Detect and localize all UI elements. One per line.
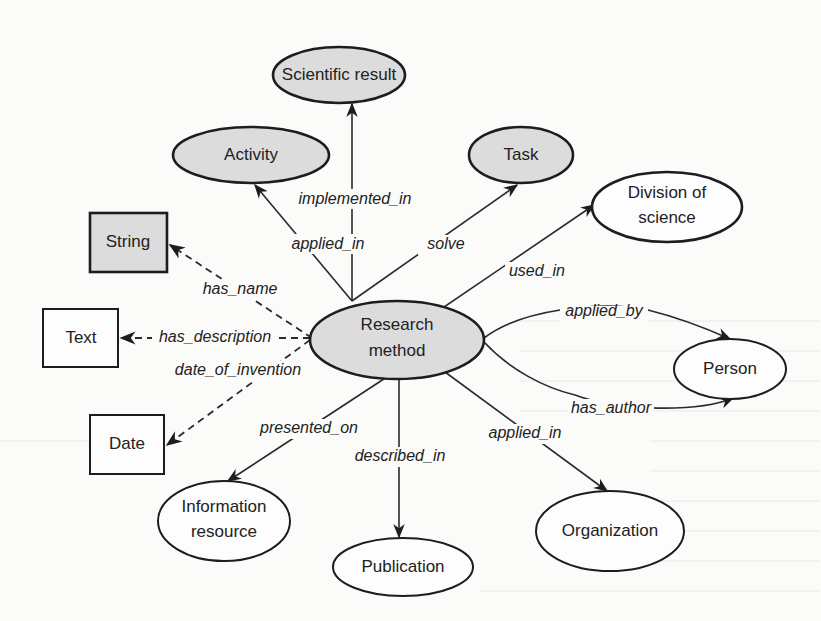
- node-person[interactable]: Person: [674, 339, 786, 399]
- node-label: Text: [65, 328, 96, 347]
- node-text[interactable]: Text: [43, 309, 118, 367]
- node-activity[interactable]: Activity: [173, 127, 329, 183]
- node-label-line1: Research: [361, 315, 434, 334]
- ontology-diagram: implemented_in applied_in solve used_in …: [0, 0, 821, 621]
- node-label: Activity: [224, 145, 278, 164]
- node-label: Date: [109, 434, 145, 453]
- edge-label-used-in: used_in: [509, 262, 565, 279]
- node-division-of-science[interactable]: Division of science: [592, 172, 742, 242]
- edge-label-has-author: has_author: [571, 399, 652, 416]
- node-publication[interactable]: Publication: [333, 538, 473, 596]
- node-string[interactable]: String: [90, 213, 167, 272]
- node-information-resource[interactable]: Information resource: [158, 481, 290, 561]
- node-label-line2: resource: [191, 522, 257, 541]
- node-label: Organization: [562, 521, 658, 540]
- edge-described-in: described_in: [350, 378, 450, 537]
- node-label: Publication: [361, 557, 444, 576]
- node-label: Task: [504, 145, 539, 164]
- node-organization[interactable]: Organization: [536, 491, 684, 571]
- edge-label-described-in: described_in: [355, 447, 446, 464]
- node-date[interactable]: Date: [90, 415, 164, 474]
- edge-label-solve: solve: [427, 235, 464, 252]
- edge-label-applied-by: applied_by: [565, 302, 643, 319]
- node-label-line2: method: [369, 341, 426, 360]
- edge-label-presented-on: presented_on: [259, 419, 358, 436]
- node-label: Person: [703, 359, 757, 378]
- node-label: String: [106, 232, 150, 251]
- node-task[interactable]: Task: [469, 127, 573, 183]
- edge-applied-in-organization: applied_in: [445, 372, 607, 491]
- node-scientific-result[interactable]: Scientific result: [273, 47, 405, 103]
- edge-has-description: has_description: [121, 328, 310, 348]
- node-label: Scientific result: [282, 65, 397, 84]
- node-label-line1: Information: [181, 497, 266, 516]
- edge-label-has-description: has_description: [159, 328, 271, 345]
- edge-label-implemented-in: implemented_in: [299, 190, 412, 207]
- edge-label-date-of-invention: date_of_invention: [175, 361, 301, 378]
- node-label-line2: science: [638, 208, 696, 227]
- edge-label-applied-in-organization: applied_in: [489, 424, 562, 441]
- node-label-line1: Division of: [628, 183, 707, 202]
- edge-has-name: has_name: [170, 245, 312, 338]
- node-research-method[interactable]: Research method: [310, 301, 484, 379]
- edge-label-applied-in-activity: applied_in: [292, 235, 365, 252]
- edge-label-has-name: has_name: [203, 280, 278, 297]
